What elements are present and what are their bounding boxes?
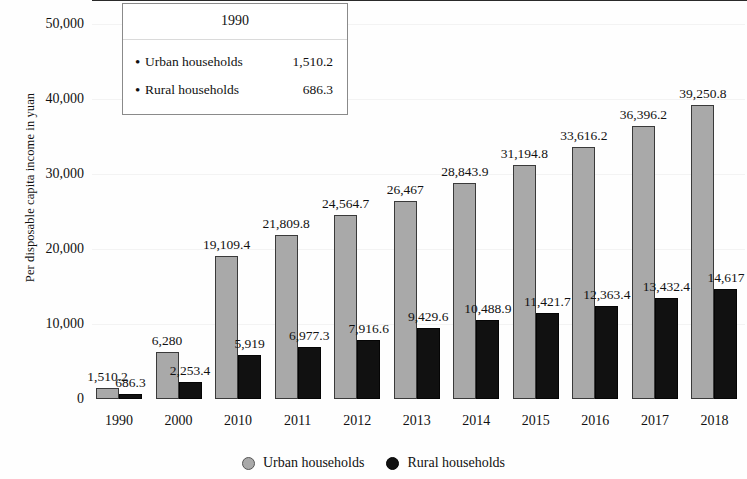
tooltip-series-value: 1,510.2 <box>293 54 334 70</box>
tooltip-body: •Urban households1,510.2•Rural household… <box>123 40 347 114</box>
bar-group: 26,4679,429.62013 <box>394 18 454 399</box>
bullet-icon: • <box>135 83 145 98</box>
bar-rural-1990[interactable] <box>119 394 142 399</box>
bar-rural-2013[interactable] <box>417 328 440 399</box>
tooltip-header: 1990 <box>123 4 347 40</box>
legend-label: Rural households <box>407 455 505 471</box>
bar-chart: Per disposable capita income in yuan 010… <box>0 0 747 479</box>
tooltip-row: •Rural households686.3 <box>123 76 347 104</box>
bar-value-label: 13,432.4 <box>643 279 690 295</box>
gray-circle-icon <box>242 457 255 470</box>
legend-item[interactable]: Urban households <box>242 455 365 471</box>
bar-rural-2015[interactable] <box>536 313 559 399</box>
legend-item[interactable]: Rural households <box>386 455 505 471</box>
tooltip-series-name: Urban households <box>145 54 293 70</box>
bar-rural-2010[interactable] <box>238 355 261 399</box>
y-axis-tick-label: 30,000 <box>22 166 84 182</box>
x-axis-tick-label: 2012 <box>343 413 371 429</box>
bar-rural-2012[interactable] <box>357 340 380 399</box>
x-axis-tick-label: 2015 <box>522 413 550 429</box>
y-axis-tick-label: 50,000 <box>22 16 84 32</box>
y-axis-tick-label: 20,000 <box>22 241 84 257</box>
bar-urban-2013[interactable] <box>394 201 417 400</box>
tooltip-row: •Urban households1,510.2 <box>123 48 347 76</box>
bar-rural-2017[interactable] <box>655 298 678 399</box>
x-axis-line <box>92 0 747 1</box>
bullet-icon: • <box>135 55 145 70</box>
bar-value-label: 21,809.8 <box>263 216 310 232</box>
y-axis-tick-label: 40,000 <box>22 91 84 107</box>
bar-urban-2018[interactable] <box>691 105 714 399</box>
x-axis-tick-label: 2017 <box>641 413 669 429</box>
x-axis-tick-label: 1990 <box>105 413 133 429</box>
bar-value-label: 6,977.3 <box>289 328 330 344</box>
bar-value-label: 26,467 <box>387 182 424 198</box>
bar-group: 33,616.212,363.42016 <box>572 18 632 399</box>
tooltip: 1990 •Urban households1,510.2•Rural hous… <box>122 3 348 115</box>
x-axis-tick-label: 2011 <box>284 413 311 429</box>
x-axis-tick-label: 2000 <box>165 413 193 429</box>
bar-rural-2000[interactable] <box>179 382 202 399</box>
x-axis-tick-label: 2013 <box>403 413 431 429</box>
x-axis-tick-label: 2014 <box>462 413 490 429</box>
y-axis-title: Per disposable capita income in yuan <box>23 48 38 328</box>
bar-value-label: 24,564.7 <box>322 196 369 212</box>
y-axis-tick-label: 10,000 <box>22 316 84 332</box>
bar-urban-2014[interactable] <box>453 183 476 399</box>
bar-value-label: 28,843.9 <box>441 164 488 180</box>
bar-urban-2017[interactable] <box>632 126 655 399</box>
bar-rural-2014[interactable] <box>476 320 499 399</box>
bar-urban-2011[interactable] <box>275 235 298 399</box>
black-circle-icon <box>386 457 399 470</box>
bar-value-label: 31,194.8 <box>501 146 548 162</box>
bar-value-label: 6,280 <box>152 333 182 349</box>
bar-urban-2012[interactable] <box>334 215 357 399</box>
bar-urban-2010[interactable] <box>215 256 238 399</box>
legend-label: Urban households <box>263 455 365 471</box>
bar-value-label: 10,488.9 <box>464 301 511 317</box>
bar-value-label: 9,429.6 <box>408 309 449 325</box>
bar-group: 31,194.811,421.72015 <box>513 18 573 399</box>
bar-value-label: 12,363.4 <box>583 287 630 303</box>
bar-value-label: 14,617 <box>707 270 744 286</box>
bar-value-label: 39,250.8 <box>679 86 726 102</box>
x-axis-tick-label: 2016 <box>581 413 609 429</box>
y-axis-tick-label: 0 <box>22 391 84 407</box>
bar-value-label: 11,421.7 <box>524 294 571 310</box>
bar-value-label: 36,396.2 <box>620 107 667 123</box>
bar-group: 28,843.910,488.92014 <box>453 18 513 399</box>
bar-value-label: 5,919 <box>234 336 264 352</box>
bar-urban-2016[interactable] <box>572 147 595 399</box>
tooltip-series-value: 686.3 <box>303 82 333 98</box>
bar-value-label: 19,109.4 <box>203 237 250 253</box>
bar-value-label: 7,916.6 <box>348 321 389 337</box>
bar-group: 39,250.814,6172018 <box>691 18 747 399</box>
chart-legend: Urban householdsRural households <box>0 455 747 471</box>
bar-group: 36,396.213,432.42017 <box>632 18 692 399</box>
x-axis-tick-label: 2018 <box>700 413 728 429</box>
bar-rural-2018[interactable] <box>714 289 737 399</box>
tooltip-series-name: Rural households <box>145 82 303 98</box>
bar-rural-2016[interactable] <box>595 306 618 399</box>
bar-value-label: 686.3 <box>115 375 145 391</box>
bar-urban-2015[interactable] <box>513 165 536 399</box>
bar-value-label: 33,616.2 <box>560 128 607 144</box>
x-axis-tick-label: 2010 <box>224 413 252 429</box>
bar-value-label: 2,253.4 <box>170 363 211 379</box>
bar-rural-2011[interactable] <box>298 347 321 399</box>
